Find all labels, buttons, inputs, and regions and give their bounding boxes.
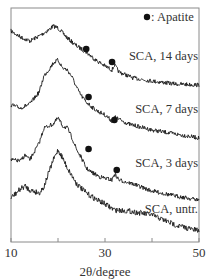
apatite-marker-icon — [83, 46, 90, 53]
x-tick-label: 30 — [99, 245, 112, 260]
x-ticks: 103050 — [5, 238, 206, 260]
x-tick-label: 10 — [5, 245, 18, 260]
apatite-marker-icon — [109, 59, 116, 66]
xrd-chart: 103050 SCA, 14 daysSCA, 7 daysSCA, 3 day… — [0, 0, 210, 280]
series-label: SCA, 7 days — [135, 102, 198, 116]
legend-marker-icon — [144, 14, 150, 20]
apatite-marker-icon — [85, 94, 92, 101]
x-tick-label: 50 — [193, 245, 206, 260]
trace-sca-7-days — [11, 58, 199, 139]
legend-label: : Apatite — [151, 10, 194, 24]
apatite-marker-icon — [111, 117, 118, 124]
apatite-marker-icon — [113, 167, 120, 174]
series-label: SCA, 3 days — [135, 156, 198, 170]
series-label: SCA, untr. — [145, 202, 198, 216]
x-axis-label: 2θ/degree — [80, 264, 131, 279]
legend: : Apatite — [144, 10, 194, 24]
apatite-marker-icon — [85, 146, 92, 153]
series-label: SCA, 14 days — [129, 49, 198, 63]
